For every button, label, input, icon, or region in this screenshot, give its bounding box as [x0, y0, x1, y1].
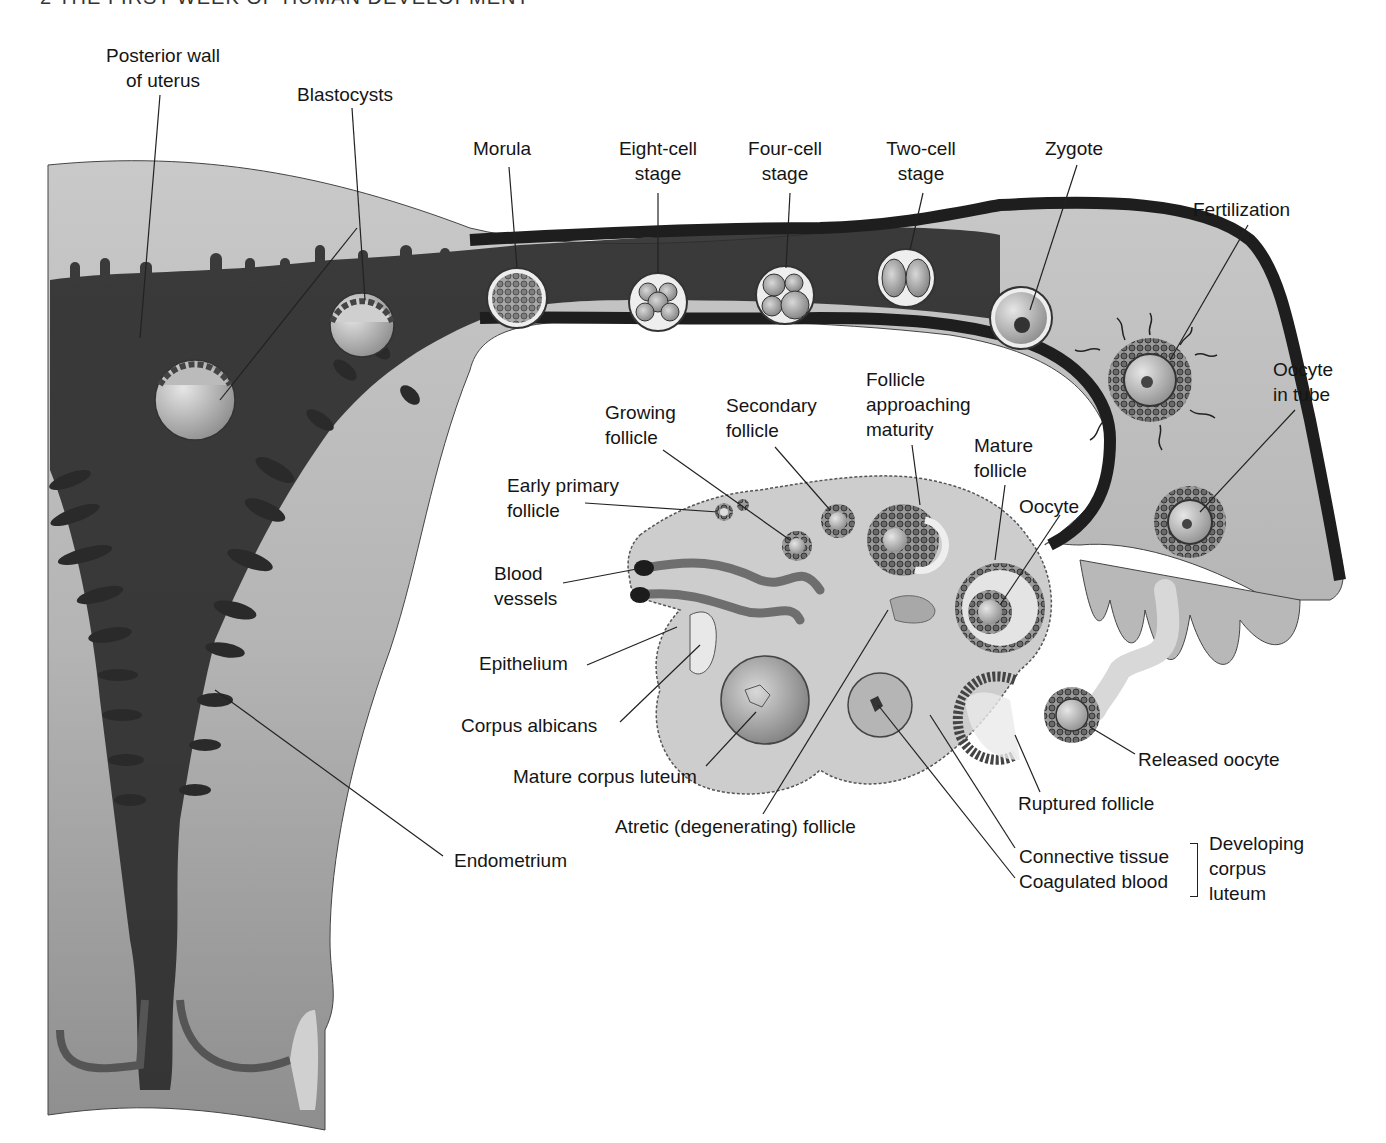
blastocyst-1 — [155, 360, 235, 440]
label-line: luteum — [1209, 881, 1304, 906]
label-line: Blood — [494, 561, 557, 586]
label-line: Two-cell — [873, 136, 969, 161]
four-cell-stage-cell — [756, 266, 814, 324]
label-line: Secondary — [726, 393, 817, 418]
morula-cell — [487, 268, 547, 328]
label-line: of uterus — [98, 68, 228, 93]
label-developing-corpus-luteum: Developing corpus luteum — [1209, 831, 1304, 906]
label-released-oocyte: Released oocyte — [1138, 747, 1280, 772]
label-atretic-follicle: Atretic (degenerating) follicle — [615, 814, 856, 839]
label-line: Mature — [974, 433, 1033, 458]
label-line: vessels — [494, 586, 557, 611]
label-oocyte-in-tube: Oocyte in tube — [1273, 357, 1333, 407]
label-follicle-approaching-maturity: Follicle approaching maturity — [866, 367, 971, 442]
label-line: Oocyte — [1273, 357, 1333, 382]
label-line: follicle — [507, 498, 619, 523]
label-line: Growing — [605, 400, 676, 425]
label-line: follicle — [974, 458, 1033, 483]
label-four-cell: Four-cell stage — [737, 136, 833, 186]
label-line: Four-cell — [737, 136, 833, 161]
zygote-cell — [990, 287, 1052, 349]
two-cell-stage-cell — [877, 249, 935, 307]
label-oocyte: Oocyte — [1019, 494, 1079, 519]
label-line: stage — [608, 161, 708, 186]
label-line: follicle — [605, 425, 676, 450]
label-fertilization: Fertilization — [1193, 197, 1290, 222]
label-mature-follicle: Mature follicle — [974, 433, 1033, 483]
label-mature-corpus-luteum: Mature corpus luteum — [513, 764, 697, 789]
label-line: corpus — [1209, 856, 1304, 881]
label-corpus-albicans: Corpus albicans — [461, 713, 597, 738]
label-line: Follicle — [866, 367, 971, 392]
label-endometrium: Endometrium — [454, 848, 567, 873]
label-line: stage — [737, 161, 833, 186]
label-line: Eight-cell — [608, 136, 708, 161]
ovary — [628, 476, 1051, 794]
released-oocyte-cell — [1044, 687, 1100, 743]
label-blastocysts: Blastocysts — [297, 82, 393, 107]
label-eight-cell: Eight-cell stage — [608, 136, 708, 186]
label-line: follicle — [726, 418, 817, 443]
label-ruptured-follicle: Ruptured follicle — [1018, 791, 1154, 816]
label-posterior-wall: Posterior wall of uterus — [98, 43, 228, 93]
label-secondary-follicle: Secondary follicle — [726, 393, 817, 443]
label-blood-vessels: Blood vessels — [494, 561, 557, 611]
eight-cell-stage-cell — [629, 273, 687, 331]
blastocyst-2 — [330, 293, 394, 357]
bracket — [1190, 843, 1198, 897]
label-line: Developing — [1209, 831, 1304, 856]
label-line: maturity — [866, 417, 971, 442]
label-zygote: Zygote — [1045, 136, 1103, 161]
label-line: Early primary — [507, 473, 619, 498]
label-morula: Morula — [473, 136, 531, 161]
label-line: Posterior wall — [98, 43, 228, 68]
oocyte-in-tube — [1154, 486, 1226, 558]
label-connective-tissue: Connective tissue — [1019, 844, 1169, 869]
label-epithelium: Epithelium — [479, 651, 568, 676]
label-coagulated-blood: Coagulated blood — [1019, 869, 1168, 894]
label-line: stage — [873, 161, 969, 186]
label-line: in tube — [1273, 382, 1333, 407]
label-early-primary-follicle: Early primary follicle — [507, 473, 619, 523]
label-two-cell: Two-cell stage — [873, 136, 969, 186]
label-growing-follicle: Growing follicle — [605, 400, 676, 450]
label-line: approaching — [866, 392, 971, 417]
